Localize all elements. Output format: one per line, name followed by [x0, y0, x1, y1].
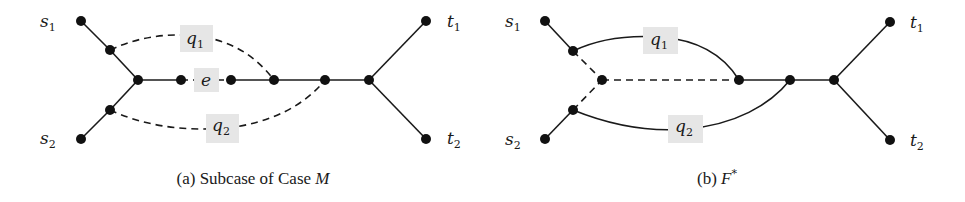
node-t1: [421, 16, 431, 26]
panel-a: q1 e q2 s1 s2 t1 t2 (a) Subcase of Case …: [40, 11, 461, 188]
label-s1: s1: [40, 11, 56, 34]
diagram-canvas: q1 e q2 s1 s2 t1 t2 (a) Subcase of Case …: [0, 0, 965, 202]
caption-b: (b) F*: [697, 167, 737, 188]
label-s2: s2: [505, 129, 521, 152]
edge-s2-lower: [81, 110, 110, 139]
node-q2-end: [785, 75, 795, 85]
node-t2: [421, 134, 431, 144]
node-s2: [540, 134, 550, 144]
node-q2-end: [320, 75, 330, 85]
node-upper-junction: [568, 46, 578, 56]
label-t1: t1: [447, 11, 461, 34]
edge-upper-center: [110, 50, 138, 80]
node-lower-junction: [105, 105, 115, 115]
node-t2: [885, 135, 895, 145]
edge-lower-center-removed: [573, 80, 602, 110]
node-center: [597, 75, 607, 85]
edge-hub-t1: [834, 22, 890, 80]
panel-b: q1 q2 s1 s2 t1 t2 (b) F*: [505, 11, 924, 188]
node-s1: [76, 16, 86, 26]
node-e-right: [226, 75, 236, 85]
node-e-left: [176, 75, 186, 85]
label-t2: t2: [910, 130, 924, 153]
label-s1: s1: [505, 11, 521, 34]
edge-lower-center: [110, 80, 138, 110]
node-lower-junction: [568, 105, 578, 115]
node-hub: [364, 75, 374, 85]
figure: q1 e q2 s1 s2 t1 t2 (a) Subcase of Case …: [0, 0, 965, 202]
node-hub: [829, 75, 839, 85]
edge-s1-upper: [81, 21, 110, 50]
edge-s2-lower: [545, 110, 573, 139]
node-q1-end: [269, 75, 279, 85]
edge-hub-t2: [369, 80, 426, 139]
node-center: [133, 75, 143, 85]
node-s2: [76, 134, 86, 144]
label-t1: t1: [910, 12, 924, 35]
node-upper-junction: [105, 45, 115, 55]
edge-upper-center-removed: [573, 51, 602, 80]
edge-hub-t1: [369, 21, 426, 80]
node-t1: [885, 17, 895, 27]
caption-a: (a) Subcase of Case M: [177, 169, 331, 188]
edge-hub-t2: [834, 80, 890, 140]
label-t2: t2: [447, 128, 461, 151]
label-s2: s2: [40, 128, 56, 151]
node-q1-end: [734, 75, 744, 85]
label-e: e: [201, 70, 211, 90]
node-s1: [540, 16, 550, 26]
edge-s1-upper: [545, 21, 573, 51]
